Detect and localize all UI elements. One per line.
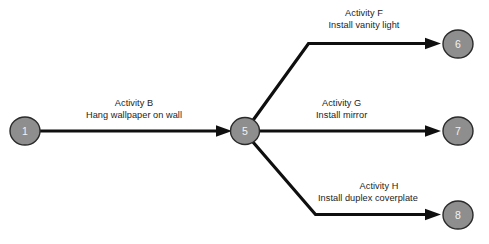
edge-activity-g-caption: Activity G Install mirror: [316, 98, 420, 121]
node-8[interactable]: 8: [443, 201, 473, 229]
node-1[interactable]: 1: [10, 117, 40, 145]
node-6-label: 6: [455, 38, 461, 50]
edge-activity-b-arrowhead: [216, 125, 232, 137]
edge-activity-h-caption: Activity H Install duplex coverplate: [318, 181, 440, 204]
network-diagram-svg: 1 5 6 7 8: [0, 0, 489, 244]
edge-activity-g-arrowhead: [425, 125, 441, 137]
edge-activity-f-caption: Activity F Install vanity light: [312, 8, 416, 31]
edge-activity-g[interactable]: [258, 125, 441, 137]
node-7-label: 7: [455, 125, 461, 137]
edge-activity-b-activity: Activity B: [72, 98, 196, 110]
node-5-label: 5: [242, 125, 248, 137]
edge-activity-b-description: Hang wallpaper on wall: [72, 110, 196, 122]
edge-activity-g-description: Install mirror: [316, 110, 420, 122]
network-diagram-canvas: 1 5 6 7 8 Activity B Hang wallpaper on w…: [0, 0, 489, 244]
node-7[interactable]: 7: [443, 117, 473, 145]
edge-activity-h-description: Install duplex coverplate: [318, 193, 440, 205]
edge-activity-f-description: Install vanity light: [312, 20, 416, 32]
edge-activity-g-activity: Activity G: [316, 98, 420, 110]
edge-activity-f-arrowhead: [425, 38, 441, 50]
edge-activity-f-activity: Activity F: [312, 8, 416, 20]
edge-activity-h-activity: Activity H: [318, 181, 440, 193]
node-8-label: 8: [455, 209, 461, 221]
edge-activity-b[interactable]: [40, 125, 232, 137]
edge-activity-b-caption: Activity B Hang wallpaper on wall: [72, 98, 196, 121]
node-5[interactable]: 5: [231, 118, 260, 145]
node-1-label: 1: [22, 125, 28, 137]
node-6[interactable]: 6: [443, 30, 473, 58]
edge-activity-h-arrowhead: [425, 209, 441, 221]
